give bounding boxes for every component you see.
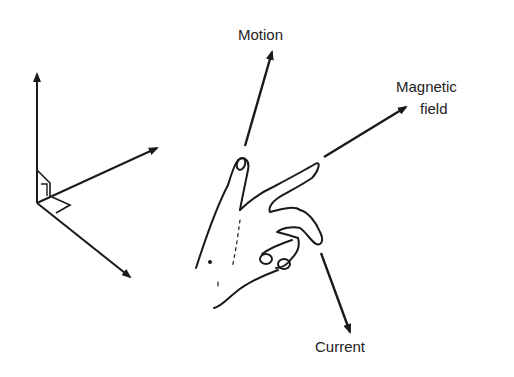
ring-finger xyxy=(277,210,322,244)
motion-label: Motion xyxy=(238,26,283,43)
palm-crease xyxy=(232,220,240,268)
diagonal-axis xyxy=(37,203,130,277)
right-angle-marker xyxy=(52,197,70,213)
horizontal-axis xyxy=(37,148,157,203)
magnetic-field-label-line1: Magnetic xyxy=(396,78,457,95)
magnetic-field-arrow xyxy=(324,107,406,157)
current-arrow xyxy=(321,253,350,332)
palm-dot xyxy=(209,261,211,263)
right-hand-rule-diagram: Motion Magnetic field Current xyxy=(0,0,514,377)
motion-arrow xyxy=(245,52,272,146)
fingernail xyxy=(235,157,247,171)
knuckle-line xyxy=(262,240,292,254)
wrist xyxy=(214,270,278,308)
right-angle-marker xyxy=(41,184,47,196)
axes-icon xyxy=(37,74,157,277)
current-label: Current xyxy=(315,338,366,355)
middle-finger xyxy=(240,163,319,212)
magnetic-field-label-line2: field xyxy=(420,100,448,117)
hand-icon xyxy=(196,157,322,308)
curled-fingertip xyxy=(260,254,272,264)
index-finger xyxy=(196,158,248,268)
